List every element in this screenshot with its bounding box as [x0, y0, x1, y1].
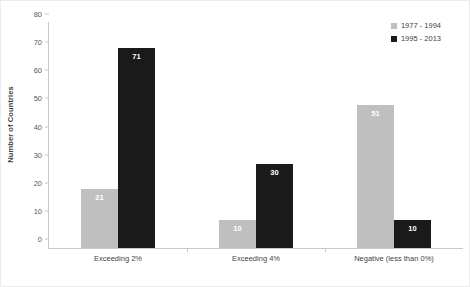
bar[interactable]: 10 — [219, 220, 256, 248]
legend-item[interactable]: 1995 - 2013 — [391, 34, 441, 43]
bar-value-label: 10 — [219, 224, 256, 233]
y-axis-tick-mark — [45, 126, 49, 127]
legend-swatch-icon — [391, 23, 397, 29]
x-axis-category-label: Exceeding 4% — [232, 254, 280, 263]
y-axis-tick: 50 — [34, 94, 49, 103]
y-axis-tick-label: 30 — [34, 150, 45, 159]
bar[interactable]: 10 — [394, 220, 431, 248]
bar[interactable]: 21 — [81, 189, 118, 248]
legend-swatch-icon — [391, 36, 397, 42]
x-axis-tick-mark — [187, 248, 188, 252]
y-axis-tick: 20 — [34, 178, 49, 187]
y-axis-tick-label: 70 — [34, 38, 45, 47]
bar-value-label: 71 — [118, 52, 155, 61]
y-axis-tick-label: 60 — [34, 66, 45, 75]
y-axis-title: Number of Countries — [3, 1, 17, 248]
y-axis-tick-label: 0 — [38, 235, 45, 244]
bar[interactable]: 51 — [357, 105, 394, 248]
y-axis-tick-mark — [45, 98, 49, 99]
x-axis-category-label: Negative (less than 0%) — [354, 254, 434, 263]
bar-value-label: 10 — [394, 224, 431, 233]
y-axis-title-text: Number of Countries — [6, 86, 15, 163]
y-axis-tick-mark — [45, 210, 49, 211]
plot-area: 01020304050607080217110305110 — [49, 23, 463, 248]
y-axis-tick-label: 10 — [34, 206, 45, 215]
bar-chart: Number of Countries 01020304050607080217… — [0, 0, 470, 287]
y-axis-tick-mark — [45, 239, 49, 240]
x-axis-tick-mark — [325, 248, 326, 252]
y-axis-tick-label: 20 — [34, 178, 45, 187]
y-axis-tick: 40 — [34, 122, 49, 131]
y-axis-tick-mark — [45, 154, 49, 155]
y-axis-tick: 60 — [34, 66, 49, 75]
chart-legend: 1977 - 19941995 - 2013 — [391, 21, 441, 43]
bar[interactable]: 30 — [256, 164, 293, 248]
y-axis-tick: 30 — [34, 150, 49, 159]
y-axis-tick-mark — [45, 42, 49, 43]
y-axis-tick: 10 — [34, 206, 49, 215]
y-axis-tick-mark — [45, 14, 49, 15]
legend-item[interactable]: 1977 - 1994 — [391, 21, 441, 30]
bar-value-label: 21 — [81, 193, 118, 202]
legend-label: 1977 - 1994 — [401, 21, 441, 30]
y-axis-tick: 0 — [38, 235, 49, 244]
x-axis-line — [48, 248, 463, 249]
bar-value-label: 51 — [357, 109, 394, 118]
legend-label: 1995 - 2013 — [401, 34, 441, 43]
bar-value-label: 30 — [256, 168, 293, 177]
y-axis-tick: 80 — [34, 10, 49, 19]
y-axis-tick-label: 80 — [34, 10, 45, 19]
y-axis-tick-label: 40 — [34, 122, 45, 131]
y-axis-tick-mark — [45, 182, 49, 183]
y-axis-tick: 70 — [34, 38, 49, 47]
y-axis-tick-mark — [45, 70, 49, 71]
bar[interactable]: 71 — [118, 48, 155, 248]
x-axis-category-label: Exceeding 2% — [94, 254, 142, 263]
y-axis-tick-label: 50 — [34, 94, 45, 103]
